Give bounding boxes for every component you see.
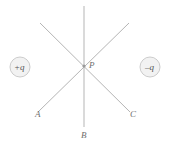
ray-upperleft-to-C — [40, 23, 130, 112]
positive-charge-label: +q — [14, 63, 25, 72]
point-P-marker — [82, 64, 85, 67]
direction-label-C: C — [130, 110, 136, 119]
direction-label-B: B — [81, 131, 87, 140]
electric-dipole-diagram: P A B C +q –q — [0, 0, 169, 148]
direction-label-A: A — [35, 110, 41, 119]
diagram-canvas — [0, 0, 169, 148]
point-label-P: P — [89, 61, 95, 70]
negative-charge-label: –q — [145, 63, 154, 72]
